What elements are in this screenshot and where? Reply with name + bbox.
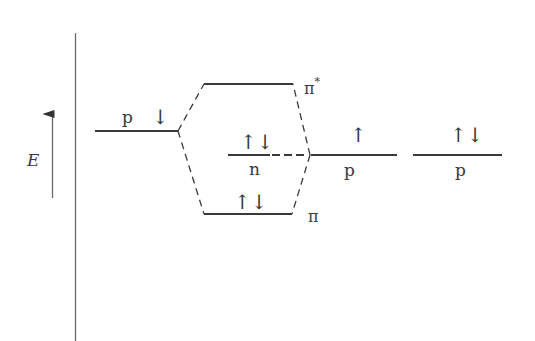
left-p-to-pi-star-connector [178, 84, 204, 131]
left-p-label: p [122, 107, 133, 127]
n-electrons: ↑↓ [240, 130, 274, 154]
right-p-label: p [344, 160, 355, 180]
left-p-to-pi-connector [178, 131, 204, 214]
left-p-electrons: ↓ [152, 105, 169, 129]
right-p-electrons: ↑ [350, 123, 367, 147]
pi-electrons: ↑↓ [234, 190, 268, 214]
pi-star-label: π* [304, 75, 321, 98]
mo-diagram: E p ↓ π* ↑↓ π ↑↓ n ↑ p ↑↓ p [0, 0, 535, 341]
pi-star-superscript: * [315, 75, 321, 88]
pi-star-symbol: π [304, 79, 315, 98]
pi-label: π [308, 207, 319, 226]
far-right-p-electrons: ↑↓ [450, 123, 484, 147]
energy-axis-label: E [26, 150, 40, 170]
n-label: n [249, 159, 260, 179]
right-p-to-pi-connector [292, 155, 310, 214]
far-right-p-label: p [455, 160, 466, 180]
